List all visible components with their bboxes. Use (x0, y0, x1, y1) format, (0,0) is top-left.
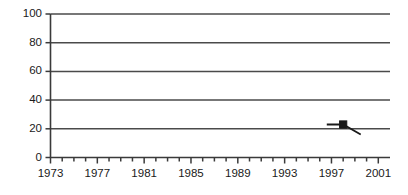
x-tick-label: 2001 (358, 168, 398, 180)
y-tick-label: 40 (0, 94, 42, 106)
x-tick-label: 1973 (31, 168, 71, 180)
x-tick-label: 1977 (77, 168, 117, 180)
x-tick-label: 1989 (218, 168, 258, 180)
y-tick-label: 0 (0, 152, 42, 164)
x-tick-label: 1997 (311, 168, 351, 180)
y-tick-label: 100 (0, 8, 42, 20)
x-tick-label: 1985 (171, 168, 211, 180)
y-tick-label: 60 (0, 65, 42, 77)
gridlines (51, 14, 391, 129)
series-marker-square (340, 121, 347, 128)
data-series-group (327, 121, 361, 135)
x-tick-label: 1981 (124, 168, 164, 180)
y-tick-label: 20 (0, 123, 42, 135)
x-tick-label: 1993 (265, 168, 305, 180)
line-chart: 020406080100 197319771981198519891993199… (0, 0, 408, 195)
chart-plot-area (0, 0, 408, 195)
x-axis-ticks (51, 158, 379, 164)
y-tick-label: 80 (0, 37, 42, 49)
